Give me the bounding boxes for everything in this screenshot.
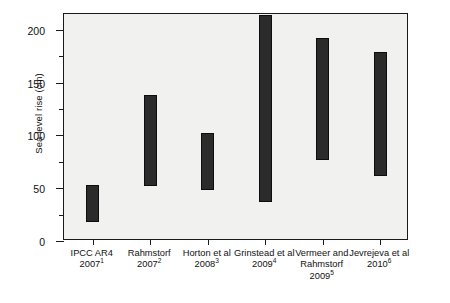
range-bar xyxy=(374,52,387,176)
y-tick-label: 200 xyxy=(27,25,45,37)
x-category-reference: 3 xyxy=(215,257,219,264)
y-axis-title: Sea level rise (cm) xyxy=(33,29,44,199)
y-tick-minor xyxy=(59,162,64,163)
x-tick xyxy=(150,239,151,245)
y-tick-minor xyxy=(59,56,64,57)
y-tick-label: 50 xyxy=(33,183,45,195)
y-tick-label: 150 xyxy=(27,78,45,90)
x-category-reference: 1 xyxy=(100,257,104,264)
y-tick-major: 0 xyxy=(56,241,64,242)
x-category-reference: 6 xyxy=(388,257,392,264)
y-tick-minor xyxy=(59,215,64,216)
y-tick-major: 100 xyxy=(56,135,64,136)
range-bar xyxy=(201,133,214,190)
x-tick xyxy=(323,239,324,245)
x-category-year: 20095 xyxy=(286,271,358,282)
x-category-year: 20106 xyxy=(344,259,416,270)
x-category-label: Jevrejeva et al20106 xyxy=(344,248,416,271)
range-bar xyxy=(144,95,157,186)
y-tick-minor xyxy=(59,109,64,110)
x-tick xyxy=(93,239,94,245)
y-tick-major: 200 xyxy=(56,30,64,31)
sea-level-rise-chart: Sea level rise (cm) 050100150200 IPCC AR… xyxy=(0,0,450,303)
x-tick xyxy=(208,239,209,245)
y-tick-major: 50 xyxy=(56,188,64,189)
range-bar xyxy=(316,38,329,159)
range-bar xyxy=(259,15,272,202)
x-category-reference: 4 xyxy=(273,257,277,264)
y-tick-label: 100 xyxy=(27,130,45,142)
y-tick-major: 150 xyxy=(56,83,64,84)
x-category-name: Jevrejeva et al xyxy=(344,248,416,259)
range-bar xyxy=(86,185,99,222)
x-tick xyxy=(380,239,381,245)
plot-area: 050100150200 xyxy=(63,13,408,240)
x-category-reference: 5 xyxy=(330,269,334,276)
y-tick-label: 0 xyxy=(39,236,45,248)
x-tick xyxy=(265,239,266,245)
x-category-reference: 2 xyxy=(158,257,162,264)
